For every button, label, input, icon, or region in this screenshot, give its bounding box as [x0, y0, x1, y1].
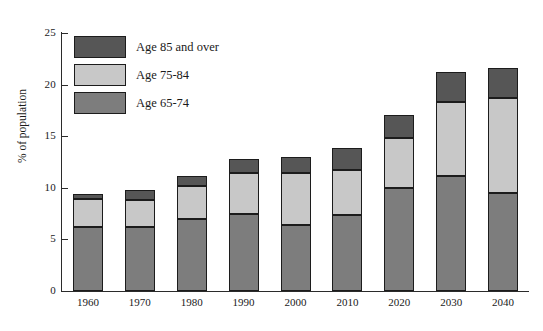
- y-tick-label: 25: [4, 27, 56, 38]
- y-tick-label-wrap: 20: [0, 79, 56, 90]
- y-tick-label: 20: [4, 79, 56, 90]
- bar-segment: [125, 227, 155, 291]
- y-tick-label: 0: [4, 285, 56, 296]
- bar-segment: [229, 159, 259, 173]
- y-tick-label-wrap: 5: [0, 233, 56, 244]
- bar-segment: [384, 138, 414, 188]
- bar-group: [488, 0, 518, 331]
- x-tick-label: 1960: [61, 296, 115, 309]
- y-tick-label: 5: [4, 233, 56, 244]
- bar-segment: [177, 176, 207, 185]
- y-tick-mark: [62, 33, 68, 34]
- legend-swatch: [74, 92, 126, 114]
- legend-label: Age 85 and over: [136, 40, 219, 54]
- x-tick-label: 2030: [424, 296, 478, 309]
- chart-figure: % of population 0510152025 1960197019801…: [0, 0, 543, 331]
- x-tick-label: 1970: [113, 296, 167, 309]
- y-tick-label-wrap: 15: [0, 130, 56, 141]
- y-axis-line: [61, 32, 62, 292]
- legend-item: Age 65-74: [74, 92, 284, 117]
- bar-group: [436, 0, 466, 331]
- y-tick-label-wrap: 25: [0, 27, 56, 38]
- x-tick-label: 1990: [217, 296, 271, 309]
- y-axis-title: % of population: [16, 56, 28, 196]
- bar-segment: [281, 225, 311, 291]
- y-tick-label: 10: [4, 182, 56, 193]
- bar-segment: [488, 68, 518, 98]
- bar-segment: [332, 148, 362, 171]
- bar-group: [384, 0, 414, 331]
- bar-segment: [125, 200, 155, 227]
- bar-segment: [281, 157, 311, 174]
- legend-swatch: [74, 36, 126, 58]
- y-tick-label-wrap: 0: [0, 285, 56, 296]
- x-tick-label: 2040: [476, 296, 530, 309]
- bar-segment: [229, 214, 259, 291]
- bar-segment: [436, 176, 466, 291]
- bar-segment: [332, 215, 362, 291]
- bar-segment: [229, 173, 259, 213]
- legend-label: Age 65-74: [136, 96, 189, 110]
- bar-segment: [436, 72, 466, 102]
- bar-segment: [488, 193, 518, 291]
- legend-item: Age 75-84: [74, 64, 284, 89]
- bar-group: [332, 0, 362, 331]
- bar-segment: [73, 227, 103, 291]
- bar-segment: [73, 199, 103, 227]
- legend-swatch: [74, 64, 126, 86]
- bar-group: [281, 0, 311, 331]
- y-tick-mark: [62, 85, 68, 86]
- legend-label: Age 75-84: [136, 68, 189, 82]
- y-tick-label-wrap: 10: [0, 182, 56, 193]
- bar-segment: [177, 186, 207, 219]
- bar-segment: [177, 219, 207, 291]
- bar-segment: [125, 190, 155, 200]
- bar-segment: [332, 170, 362, 214]
- bar-segment: [73, 194, 103, 199]
- x-tick-label: 2010: [320, 296, 374, 309]
- x-tick-label: 2020: [372, 296, 426, 309]
- x-tick-label: 1980: [165, 296, 219, 309]
- legend-item: Age 85 and over: [74, 36, 284, 61]
- bar-segment: [281, 173, 311, 225]
- y-tick-label: 15: [4, 130, 56, 141]
- bar-segment: [436, 102, 466, 176]
- y-tick-mark: [62, 291, 68, 292]
- bar-segment: [488, 98, 518, 193]
- y-tick-mark: [62, 239, 68, 240]
- y-tick-mark: [62, 136, 68, 137]
- chart-legend: Age 85 and overAge 75-84Age 65-74: [74, 36, 284, 120]
- bar-segment: [384, 188, 414, 291]
- x-tick-label: 2000: [269, 296, 323, 309]
- y-tick-mark: [62, 188, 68, 189]
- bar-segment: [384, 115, 414, 139]
